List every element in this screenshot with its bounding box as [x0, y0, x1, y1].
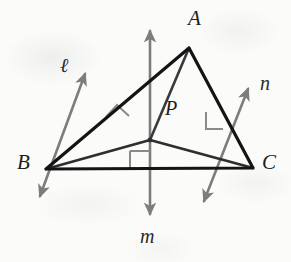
triangle-perpendicular-bisectors-diagram: [0, 0, 291, 262]
right-angle-on-BC: [130, 151, 150, 168]
segment-PA: [150, 48, 189, 140]
point-p-marker: [148, 138, 153, 143]
line-l: [40, 74, 85, 196]
segment-PC: [150, 140, 253, 168]
vertex-label-a: A: [188, 8, 201, 29]
center-label-p: P: [165, 98, 177, 118]
line-label-l: ℓ: [60, 55, 68, 75]
line-label-m: m: [140, 226, 154, 246]
line-label-n: n: [260, 73, 270, 93]
right-angle-on-AC: [206, 112, 223, 129]
geometry-figure-page: A B C P ℓ m n: [0, 0, 291, 262]
vertex-label-b: B: [17, 152, 30, 173]
vertex-label-c: C: [262, 152, 276, 173]
line-l-stroke: [40, 74, 85, 196]
